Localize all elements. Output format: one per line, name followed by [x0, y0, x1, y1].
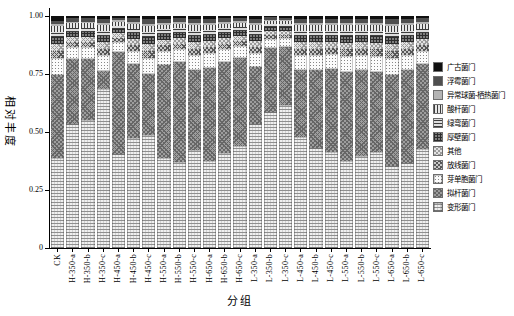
- segment-拟杆菌门: [218, 62, 231, 153]
- segment-其他: [340, 43, 353, 50]
- segment-放线菌门: [51, 51, 64, 58]
- segment-拟杆菌门: [173, 62, 186, 162]
- legend-item-广古菌门: 广古菌门: [433, 62, 513, 72]
- segment-变形菌门: [81, 120, 94, 248]
- segment-变形菌门: [142, 135, 155, 248]
- legend-swatch-solid-light-gray: [433, 90, 443, 100]
- legend-swatch-dark-grid: [433, 132, 443, 142]
- x-label-L-650-a: L-650-a: [388, 254, 396, 282]
- segment-拟杆菌门: [325, 69, 338, 152]
- x-label-L-650-c: L-650-c: [418, 254, 426, 282]
- segment-拟杆菌门: [264, 48, 277, 112]
- segment-芽单胞菌门: [401, 55, 414, 70]
- bar-H-650-a: [203, 16, 216, 248]
- x-label-H-450-b: H-450-b: [130, 254, 138, 283]
- segment-拟杆菌门: [51, 75, 64, 157]
- segment-芽单胞菌门: [157, 51, 170, 65]
- bar-H-450-b: [127, 16, 140, 248]
- x-label-L-550-b: L-550-b: [358, 254, 366, 282]
- segment-变形菌门: [203, 161, 216, 248]
- segment-芽单胞菌门: [233, 46, 246, 58]
- segment-厚壁菌门: [370, 36, 383, 43]
- segment-拟杆菌门: [97, 71, 110, 90]
- segment-厚壁菌门: [385, 37, 398, 44]
- x-label-L-550-c: L-550-c: [373, 254, 381, 282]
- x-tick-slot: [156, 249, 171, 252]
- segment-拟杆菌门: [385, 75, 398, 166]
- segment-拟杆菌门: [355, 70, 368, 156]
- x-label-H-450-a: H-450-a: [114, 254, 122, 283]
- x-tick-slot: [278, 249, 293, 252]
- y-tick-label: 0.75: [29, 70, 43, 78]
- bar-L-550-a: [340, 16, 353, 248]
- legend-label: 酸杆菌门: [447, 105, 475, 114]
- legend-label: 广古菌门: [447, 63, 475, 72]
- segment-其他: [385, 44, 398, 51]
- legend: 广古菌门浮霉菌门异常球菌-栖热菌门酸杆菌门绿弯菌门厚壁菌门其他放线菌门芽单胞菌门…: [433, 62, 513, 216]
- segment-厚壁菌门: [51, 37, 64, 44]
- x-tick-slot: [187, 249, 202, 252]
- y-tick-0.75: 0.75: [29, 70, 49, 78]
- bar-L-350-c: [279, 16, 292, 248]
- legend-swatch-fine-dots-on-white: [433, 174, 443, 184]
- segment-芽单胞菌门: [51, 58, 64, 75]
- x-tick-slot: [202, 249, 217, 252]
- segment-其他: [142, 44, 155, 51]
- x-tick-mark: [118, 249, 119, 252]
- segment-拟杆菌门: [370, 72, 383, 152]
- legend-item-芽单胞菌门: 芽单胞菌门: [433, 174, 513, 184]
- legend-item-酸杆菌门: 酸杆菌门: [433, 104, 513, 114]
- legend-label: 其他: [447, 147, 461, 156]
- segment-放线菌门: [340, 49, 353, 56]
- bar-H-650-b: [218, 16, 231, 248]
- bar-L-350-b: [264, 16, 277, 248]
- x-tick-mark: [361, 249, 362, 252]
- segment-变形菌门: [97, 89, 110, 248]
- x-tick-mark: [88, 249, 89, 252]
- segment-芽单胞菌门: [112, 42, 125, 52]
- x-label-L-550-a: L-550-a: [342, 254, 350, 282]
- bar-H-550-b: [173, 16, 186, 248]
- segment-变形菌门: [127, 138, 140, 248]
- segment-拟杆菌门: [142, 74, 155, 135]
- x-tick-mark: [72, 249, 73, 252]
- bar-L-450-c: [325, 16, 338, 248]
- x-tick-mark: [407, 249, 408, 252]
- segment-变形菌门: [66, 124, 79, 248]
- segment-芽单胞菌门: [264, 39, 277, 48]
- x-tick-slot: [50, 249, 65, 252]
- bar-H-450-c: [142, 16, 155, 248]
- x-tick-mark: [57, 249, 58, 252]
- bar-L-450-a: [294, 16, 307, 248]
- segment-变形菌门: [340, 161, 353, 248]
- x-tick-slot: [324, 249, 339, 252]
- y-axis-ticks: 1.000.750.500.250: [0, 16, 49, 248]
- segment-放线菌门: [370, 49, 383, 56]
- segment-芽单胞菌门: [370, 56, 383, 72]
- segment-变形菌门: [370, 152, 383, 248]
- x-tick-slot: [384, 249, 399, 252]
- legend-swatch-light-diagonal-crosshatch: [433, 146, 443, 156]
- segment-拟杆菌门: [66, 59, 79, 124]
- legend-item-其他: 其他: [433, 146, 513, 156]
- x-tick-slot: [263, 249, 278, 252]
- x-tick-slot: [111, 249, 126, 252]
- segment-其他: [51, 44, 64, 51]
- x-label-H-550-b: H-550-b: [175, 254, 183, 283]
- x-label-L-650-b: L-650-b: [403, 254, 411, 282]
- legend-item-异常球菌-栖热菌门: 异常球菌-栖热菌门: [433, 90, 513, 100]
- x-tick-mark: [133, 249, 134, 252]
- bar-H-650-c: [233, 16, 246, 248]
- x-tick-mark: [209, 249, 210, 252]
- segment-拟杆菌门: [188, 70, 201, 150]
- segment-拟杆菌门: [249, 67, 262, 124]
- segment-拟杆菌门: [294, 70, 307, 137]
- segment-芽单胞菌门: [385, 58, 398, 74]
- legend-swatch-vertical-stripes: [433, 104, 443, 114]
- segment-拟杆菌门: [340, 72, 353, 161]
- x-label-H-350-c: H-350-c: [99, 254, 107, 283]
- x-tick-mark: [164, 249, 165, 252]
- x-tick-mark: [331, 249, 332, 252]
- segment-拟杆菌门: [279, 47, 292, 105]
- x-tick-slot: [172, 249, 187, 252]
